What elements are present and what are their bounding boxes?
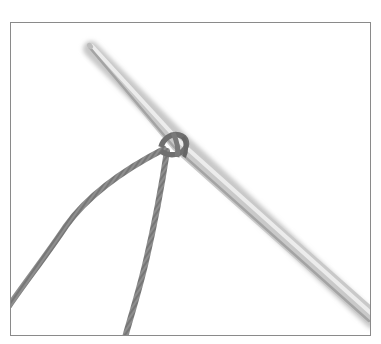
yarn (11, 133, 186, 335)
knitting-illustration (11, 23, 370, 335)
knitting-needle (86, 42, 370, 323)
photo-frame (10, 22, 371, 336)
